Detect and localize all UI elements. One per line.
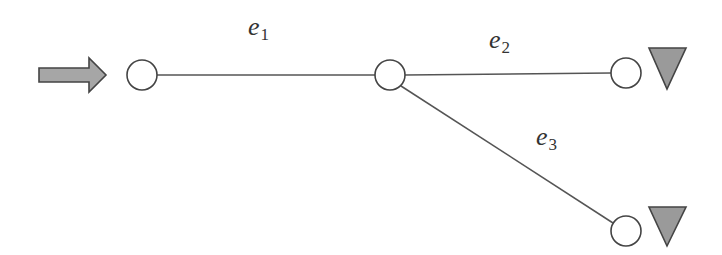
edge-symbol: e: [489, 25, 501, 54]
edge-label-e2: e2: [489, 27, 510, 53]
node-n3: [611, 58, 641, 88]
edge-index: 2: [502, 38, 511, 57]
inflow-arrow-icon: [39, 58, 106, 92]
sink-triangle-icon: [649, 207, 686, 246]
node-n2: [375, 60, 405, 90]
node-n4: [611, 216, 641, 246]
edge-index: 1: [261, 25, 270, 44]
network-diagram: [0, 0, 722, 255]
edge-e2: [405, 73, 611, 75]
edge-index: 3: [549, 135, 558, 154]
edge-label-e3: e3: [536, 124, 557, 150]
edge-label-e1: e1: [248, 14, 269, 40]
sink-triangle-icon: [649, 48, 686, 89]
edge-symbol: e: [248, 12, 260, 41]
edge-symbol: e: [536, 122, 548, 151]
edge-e3: [401, 86, 613, 223]
node-n1: [127, 60, 157, 90]
